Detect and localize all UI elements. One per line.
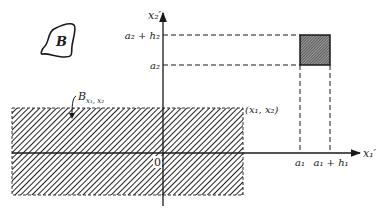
region-B-x1-x2 xyxy=(12,108,243,195)
origin-label: 0 xyxy=(154,156,161,169)
tick-a2: a₂ xyxy=(150,60,160,71)
set-B-label: B xyxy=(55,34,67,49)
svg-text:Bx₁, x₂: Bx₁, x₂ xyxy=(77,90,104,105)
vertical-axis-label: x₂′ xyxy=(148,9,162,22)
tick-a2-plus-h2: a₂ + h₂ xyxy=(125,30,160,41)
set-B-blob: B xyxy=(41,24,75,57)
tick-a1-plus-h1: a₁ + h₁ xyxy=(313,157,348,168)
shaded-square xyxy=(300,35,330,65)
horizontal-axis-label: x₁′ xyxy=(363,147,377,160)
corner-point-label: (x₁, x₂) xyxy=(245,104,279,115)
diagram-canvas: B x₁′ x₂′ 0 a₂ + h₂ a₂ a₁ a₁ + h₁ Bx₁, x… xyxy=(0,0,385,217)
tick-a1: a₁ xyxy=(295,157,305,168)
